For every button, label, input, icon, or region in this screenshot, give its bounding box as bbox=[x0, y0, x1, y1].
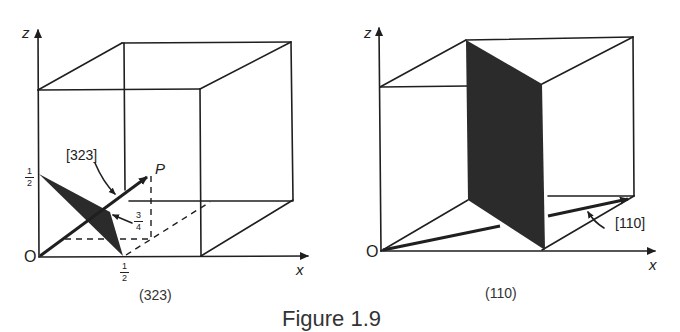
right-cube bbox=[379, 28, 655, 251]
intercept-y-fraction: 34 bbox=[134, 211, 143, 232]
plane-110 bbox=[466, 40, 545, 250]
left-z-axis bbox=[38, 30, 39, 257]
left-z-axis-label: z bbox=[22, 24, 30, 41]
left-origin-label: O bbox=[24, 248, 36, 266]
left-cube bbox=[38, 30, 308, 257]
label-pointer-three-quarters bbox=[113, 215, 132, 223]
right-z-axis-label: z bbox=[364, 24, 372, 41]
direction-label-323: [323] bbox=[66, 147, 97, 163]
right-x-axis-label: x bbox=[649, 256, 657, 273]
figure-caption: Figure 1.9 bbox=[282, 306, 381, 332]
right-origin-label: O bbox=[366, 243, 378, 261]
left-subcaption: (323) bbox=[139, 287, 172, 303]
intercept-x-fraction: 12 bbox=[120, 262, 129, 283]
direction-label-110: [110] bbox=[615, 215, 645, 231]
left-x-axis-label: x bbox=[296, 261, 304, 278]
left-x-axis bbox=[39, 256, 308, 257]
intercept-z-fraction: 12 bbox=[25, 167, 34, 188]
label-pointer-323 bbox=[95, 163, 115, 194]
point-p-label: P bbox=[155, 160, 165, 177]
right-z-axis bbox=[379, 28, 381, 251]
plane-323 bbox=[39, 174, 123, 256]
right-subcaption: (110) bbox=[485, 285, 517, 301]
